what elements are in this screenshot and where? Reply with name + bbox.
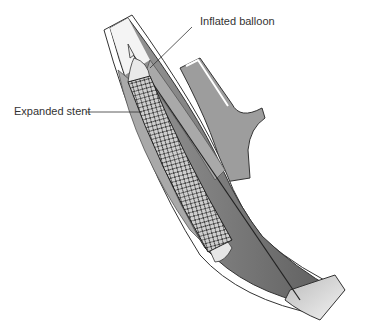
diagram-canvas: Inflated balloon Expanded stent [0,0,372,329]
label-expanded-stent: Expanded stent [14,105,90,117]
balloon-leader-line [150,27,192,68]
label-inflated-balloon: Inflated balloon [200,15,275,27]
artery-illustration [0,0,372,329]
